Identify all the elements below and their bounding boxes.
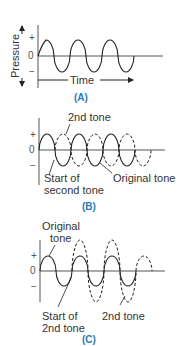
- label-original-tone-b: Original tone: [113, 172, 175, 184]
- caption-b: (B): [82, 201, 96, 212]
- tick-minus-c: −: [31, 281, 37, 292]
- tick-zero-b: 0: [29, 144, 35, 155]
- tick-plus-b: +: [30, 129, 36, 140]
- label-2nd-tone-c: 2nd tone: [102, 310, 145, 322]
- tick-zero-c: 0: [30, 265, 36, 276]
- label-2nd-tone-start-c: 2nd tone: [42, 322, 85, 334]
- label-start-of-b: Start of: [44, 172, 79, 184]
- label-start-of-c: Start of: [42, 310, 77, 322]
- tick-minus-a: −: [29, 66, 35, 77]
- tick-plus-a: +: [29, 32, 35, 43]
- x-axis-label-time: Time: [70, 74, 94, 86]
- label-2nd-tone-b: 2nd tone: [68, 111, 111, 123]
- caption-a: (A): [74, 92, 88, 103]
- label-second-tone-b: second tone: [44, 184, 104, 196]
- label-original-c: Original: [42, 220, 80, 232]
- tick-zero-a: 0: [28, 50, 34, 61]
- caption-c: (C): [82, 334, 96, 345]
- label-tone-c: tone: [50, 232, 71, 244]
- panel-c-plot: [40, 240, 165, 307]
- y-axis-label-pressure: Pressure: [9, 33, 21, 79]
- tick-minus-b: −: [30, 160, 36, 171]
- tick-plus-c: +: [31, 250, 37, 261]
